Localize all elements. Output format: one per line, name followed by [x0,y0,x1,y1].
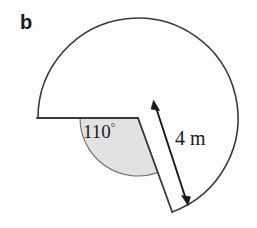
radius-length-label: 4 m [175,128,206,148]
geometry-diagram [0,0,257,228]
circle-major-arc [38,18,238,212]
angle-measure-value: 110 [83,121,111,142]
dimension-arrow-4m [151,100,190,205]
part-label-b: b [20,12,32,32]
figure-canvas: b 110° 4 m [0,0,257,228]
angle-measure-label: 110° [83,122,115,141]
degree-symbol: ° [111,121,115,133]
